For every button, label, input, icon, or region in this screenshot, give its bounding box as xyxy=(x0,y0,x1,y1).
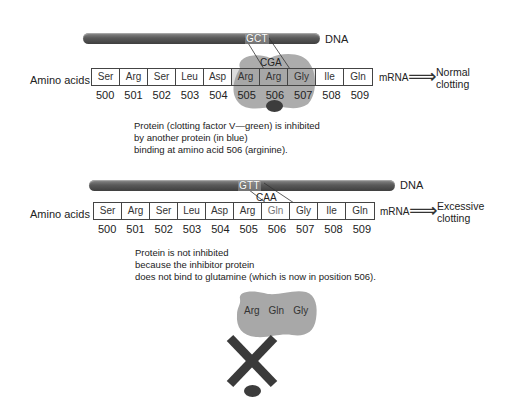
amino-acids-label: Amino acids xyxy=(30,208,90,220)
residue-label: Gln xyxy=(269,305,285,316)
amino-acid-cell: Asp xyxy=(206,203,234,219)
amino-acid-cell: Arg xyxy=(234,203,262,219)
mrna-codon: CGA xyxy=(260,57,282,68)
arrow-right-icon: ⟹ xyxy=(409,202,438,218)
position-number: 503 xyxy=(176,89,204,101)
outcome-line: clotting xyxy=(437,212,484,224)
dna-codon: GTT xyxy=(238,180,261,191)
caption-line: by another protein (in blue) xyxy=(134,132,320,144)
inhibitor-protein xyxy=(244,385,261,397)
dna-codon: GCT xyxy=(245,33,269,44)
position-number: 508 xyxy=(317,89,345,101)
amino-acid-sequence: Ser Arg Ser Leu Asp Arg Gln Gly Ile Gln xyxy=(93,202,375,220)
amino-acid-cell: Ser xyxy=(148,69,176,85)
mrna-label: mRNA xyxy=(380,206,409,217)
residue-label: Arg xyxy=(244,305,260,316)
amino-acid-cell: Gln xyxy=(346,203,374,219)
position-number: 504 xyxy=(204,89,232,101)
position-numbers: 500 501 502 503 504 505 506 507 508 509 xyxy=(91,89,374,101)
position-number: 504 xyxy=(206,223,234,235)
caption-line: does not bind to glutamine (which is now… xyxy=(135,271,376,283)
residue-label: Gly xyxy=(293,305,308,316)
amino-acid-cell: Arg xyxy=(260,69,288,85)
caption-normal: Protein (clotting factor V—green) is inh… xyxy=(134,120,320,156)
amino-acid-cell: Asp xyxy=(204,69,232,85)
position-number: 503 xyxy=(178,223,206,235)
amino-acid-cell: Arg xyxy=(122,203,150,219)
amino-acid-cell: Ile xyxy=(318,203,346,219)
position-number: 509 xyxy=(348,223,376,235)
mrna-label: mRNA xyxy=(379,72,408,83)
position-number: 501 xyxy=(119,89,147,101)
amino-acid-cell: Ile xyxy=(316,69,344,85)
amino-acid-cell: Arg xyxy=(232,69,260,85)
caption-line: Protein (clotting factor V—green) is inh… xyxy=(134,120,320,132)
amino-acid-cell: Gly xyxy=(288,69,316,85)
amino-acid-cell: Arg xyxy=(120,69,148,85)
outcome-line: clotting xyxy=(436,78,470,90)
amino-acid-sequence: Ser Arg Ser Leu Asp Arg Arg Gly Ile Gln xyxy=(91,68,373,86)
amino-acid-cell: Ser xyxy=(92,69,120,85)
caption-line: Protein is not inhibited xyxy=(135,247,376,259)
position-number: 506 xyxy=(263,223,291,235)
amino-acid-cell-mutated: Gln xyxy=(262,203,290,219)
position-number: 507 xyxy=(291,223,319,235)
position-number: 509 xyxy=(346,89,374,101)
outcome-line: Excessive xyxy=(437,200,484,212)
outcome-line: Normal xyxy=(436,66,470,78)
caption-line: because the inhibitor protein xyxy=(135,259,376,271)
outcome-label: Normal clotting xyxy=(436,66,470,90)
amino-acid-cell: Gly xyxy=(290,203,318,219)
protein-fragment-residues: Arg Gln Gly xyxy=(244,305,308,316)
position-number: 502 xyxy=(148,89,176,101)
position-number: 507 xyxy=(289,89,317,101)
position-numbers: 500 501 502 503 504 505 506 507 508 509 xyxy=(93,223,376,235)
position-number: 501 xyxy=(121,223,149,235)
position-number: 505 xyxy=(232,89,260,101)
arrow-right-icon: ⟹ xyxy=(408,68,437,84)
position-number: 502 xyxy=(150,223,178,235)
amino-acid-cell: Ser xyxy=(150,203,178,219)
dna-label: DNA xyxy=(400,179,423,191)
dna-label: DNA xyxy=(325,33,348,45)
amino-acid-cell: Gln xyxy=(344,69,372,85)
inhibitor-protein xyxy=(266,100,283,112)
position-number: 505 xyxy=(234,223,262,235)
position-number: 500 xyxy=(93,223,121,235)
caption-mutant: Protein is not inhibited because the inh… xyxy=(135,247,376,283)
amino-acid-cell: Leu xyxy=(176,69,204,85)
amino-acid-cell: Leu xyxy=(178,203,206,219)
x-mark-icon xyxy=(224,334,280,388)
amino-acid-cell: Ser xyxy=(94,203,122,219)
outcome-label: Excessive clotting xyxy=(437,200,484,224)
position-number: 500 xyxy=(91,89,119,101)
caption-line: binding at amino acid 506 (arginine). xyxy=(134,144,320,156)
position-number: 508 xyxy=(319,223,347,235)
amino-acids-label: Amino acids xyxy=(30,74,90,86)
